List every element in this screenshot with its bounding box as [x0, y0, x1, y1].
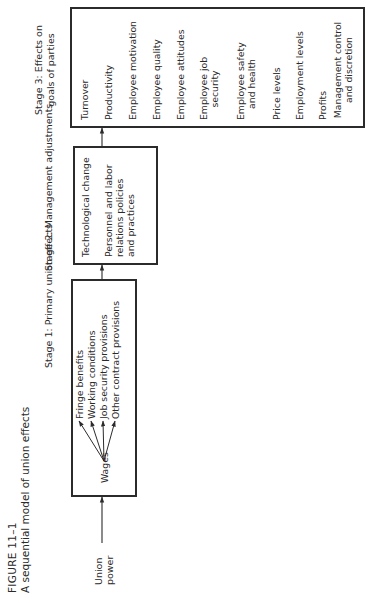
arrow-wages-to-fringe — [79, 421, 104, 461]
connector-arrows — [0, 0, 373, 603]
rotated-figure: FIGURE 11–1 A sequential model of union … — [0, 0, 373, 603]
arrow-wages-to-other — [104, 421, 115, 461]
arrow-wages-to-jobsec — [103, 421, 104, 461]
arrow-wages-to-working — [91, 421, 104, 461]
